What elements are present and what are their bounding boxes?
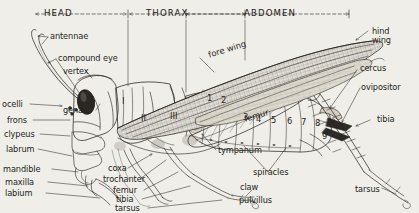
label-antennae: antennae [50, 32, 88, 41]
label-clypeus: clypeus [4, 130, 35, 139]
label-vertex: vertex [63, 67, 89, 76]
region-label-thorax: THORAX [146, 9, 188, 18]
label-labrum: labrum [6, 145, 34, 154]
region-label-head: HEAD [44, 9, 73, 18]
label-pulvillus: pulvillus [239, 196, 272, 205]
label-hind-tarsus: tarsus [355, 185, 380, 194]
label-compound-eye: compound eye [58, 54, 118, 63]
label-trochanter: trochanter [103, 175, 145, 184]
label-claw: claw [240, 183, 258, 192]
label-coxa: coxa [108, 164, 127, 173]
abdominal-segment-6: 6 [287, 116, 292, 126]
label-gena: gena [63, 106, 83, 115]
label-maxilla: maxilla [5, 178, 34, 187]
label-hind-wing-line2: wing [372, 36, 391, 45]
label-cercus: cercus [360, 64, 386, 73]
abdominal-segment-2: 2 [221, 95, 226, 105]
region-label-abdomen: ABDOMEN [244, 9, 296, 18]
label-ovipositor: ovipositor [361, 83, 400, 92]
thoracic-segment-2: II [141, 113, 146, 123]
thoracic-segment-1: I [122, 96, 125, 106]
label-frons: frons [7, 116, 27, 125]
thoracic-segment-3: III [170, 111, 178, 121]
label-tarsus: tarsus [115, 204, 140, 213]
abdominal-segment-5: 5 [271, 115, 276, 125]
abdominal-segment-10: 10 [326, 117, 335, 126]
abdominal-segment-7: 7 [301, 117, 306, 127]
label-tympanum: tympanum [218, 146, 262, 155]
label-ocelli: ocelli [2, 100, 23, 109]
label-mandible: mandible [3, 165, 40, 174]
label-hind-tibia: tibia [377, 115, 394, 124]
abdominal-segment-1: 1 [207, 93, 212, 103]
abdominal-segment-8: 8 [315, 118, 320, 128]
abdominal-segment-9: 9 [322, 131, 327, 141]
grasshopper-anatomy-figure: HEAD THORAX ABDOMEN antennae compound ey… [0, 0, 419, 213]
label-labium: labium [5, 189, 32, 198]
label-spiracles: spiracles [253, 168, 288, 177]
